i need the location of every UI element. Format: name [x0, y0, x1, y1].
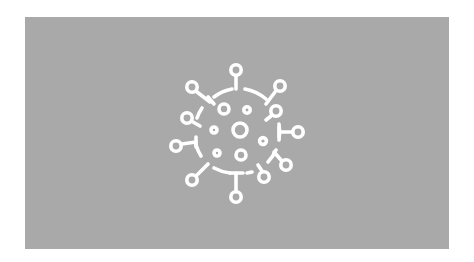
virus-icon [0, 0, 474, 262]
